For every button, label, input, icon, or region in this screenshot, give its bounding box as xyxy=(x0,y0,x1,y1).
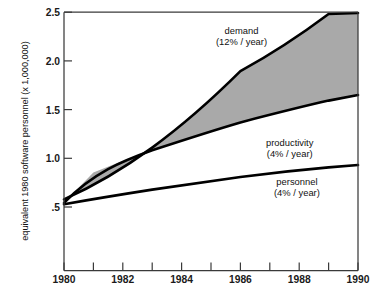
personnel-series-label: personnel (4% / year) xyxy=(274,176,320,199)
productivity-label-rate: (4% / year) xyxy=(266,148,313,159)
x-tick-label-1986: 1986 xyxy=(210,274,270,285)
y-tick-label-1-5: 1.5 xyxy=(26,104,60,115)
x-tick-label-1980: 1980 xyxy=(34,274,94,285)
y-tick-label-0-5: .5 xyxy=(26,202,60,213)
x-tick-label-1988: 1988 xyxy=(269,274,329,285)
personnel-label-name: personnel xyxy=(274,176,320,187)
demand-series-label: demand (12% / year) xyxy=(216,25,267,48)
productivity-label-name: productivity xyxy=(266,137,313,148)
demand-label-name: demand xyxy=(216,25,267,36)
x-tick-label-1990: 1990 xyxy=(328,274,381,285)
x-tick-label-1982: 1982 xyxy=(93,274,153,285)
personnel-label-rate: (4% / year) xyxy=(274,187,320,198)
y-tick-label-2-5: 2.5 xyxy=(26,7,60,18)
x-tick-label-1984: 1984 xyxy=(152,274,212,285)
demand-productivity-band xyxy=(64,13,358,203)
chart-figure: equivalent 1980 software personnel (x 1,… xyxy=(0,0,381,302)
x-axis-ticks xyxy=(64,263,358,271)
productivity-series-label: productivity (4% / year) xyxy=(266,137,313,160)
y-axis-tick-labels: 2.5 2.0 1.5 1.0 .5 xyxy=(22,0,60,302)
y-tick-label-1-0: 1.0 xyxy=(26,153,60,164)
y-tick-label-2-0: 2.0 xyxy=(26,55,60,66)
y-axis-ticks xyxy=(64,12,72,207)
x-axis-tick-labels: 1980 1982 1984 1986 1988 1990 xyxy=(0,274,381,296)
demand-label-rate: (12% / year) xyxy=(216,36,267,47)
